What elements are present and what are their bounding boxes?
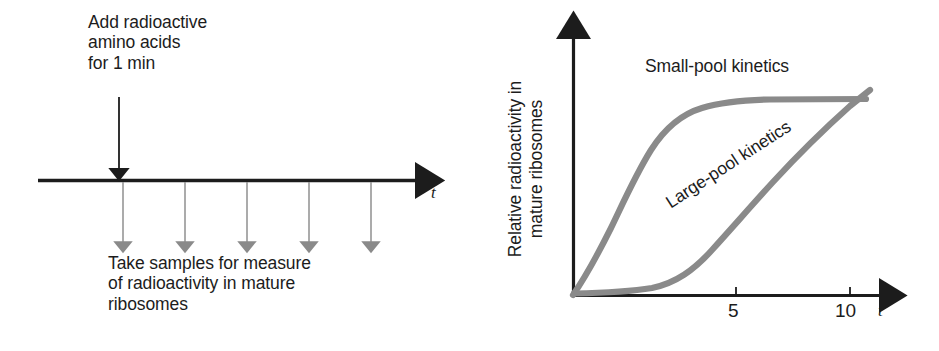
figure-root: Add radioactiveamino acidsfor 1 min Take… [0, 0, 939, 351]
sample-arrow-group [123, 182, 371, 243]
annotation-small-pool-kinetics: Small-pool kinetics [645, 56, 789, 76]
pulse-annotation-text: Add radioactiveamino acidsfor 1 min [88, 12, 207, 73]
chart-x-axis-label: t [878, 301, 883, 321]
pulse-chase-timeline-panel: Add radioactiveamino acidsfor 1 min Take… [0, 0, 470, 351]
sampling-annotation-text: Take samples for measureof radioactivity… [108, 253, 311, 314]
chart-y-axis-label-line-1: Relative radioactivity in [505, 81, 525, 257]
timeline-axis-label: t [431, 183, 436, 203]
sampling-annotation-line-2: of radioactivity in mature [108, 273, 295, 293]
pulse-annotation-line-1: Add radioactive [88, 12, 207, 32]
pulse-annotation-line-2: amino acids [88, 32, 180, 52]
sampling-annotation-line-1: Take samples for measure [108, 253, 311, 273]
chart-x-ticklabel-5: 5 [728, 300, 738, 322]
sampling-annotation-line-3: ribosomes [108, 294, 188, 314]
chart-x-ticklabel-10: 10 [835, 300, 856, 322]
series-large-pool-kinetics [574, 90, 870, 294]
chart-y-axis-label: Relative radioactivity inmature ribosome… [505, 33, 547, 305]
kinetics-chart-panel: Relative radioactivity inmature ribosome… [470, 0, 939, 351]
chart-y-axis-label-line-2: mature ribosomes [526, 100, 546, 238]
pulse-annotation-line-3: for 1 min [88, 53, 155, 73]
